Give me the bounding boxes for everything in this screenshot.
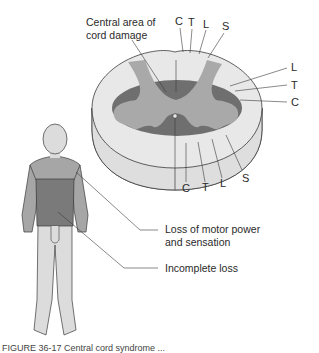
spinal-cord-diagram xyxy=(0,0,319,353)
incomplete-loss-label: Incomplete loss xyxy=(165,262,238,274)
right-label-c: C xyxy=(291,96,299,108)
top-label-l: L xyxy=(203,18,209,30)
central-damage-label-line2: cord damage xyxy=(86,29,147,41)
bottom-label-l: L xyxy=(220,177,226,189)
top-label-c: C xyxy=(175,15,183,27)
top-label-t: T xyxy=(188,16,195,28)
human-figure xyxy=(22,124,88,335)
figure-caption: FIGURE 36-17 Central cord syndrome ... xyxy=(2,343,165,353)
motor-loss-label-line2: and sensation xyxy=(165,236,230,248)
right-label-t: T xyxy=(291,79,298,91)
bottom-label-s: S xyxy=(242,172,249,184)
top-label-s: S xyxy=(222,20,229,32)
central-damage-label-line1: Central area of xyxy=(86,16,155,28)
motor-loss-label-line1: Loss of motor power xyxy=(165,223,260,235)
right-label-l: L xyxy=(291,61,297,73)
bottom-label-t: T xyxy=(202,181,209,193)
bottom-label-c: C xyxy=(182,182,190,194)
